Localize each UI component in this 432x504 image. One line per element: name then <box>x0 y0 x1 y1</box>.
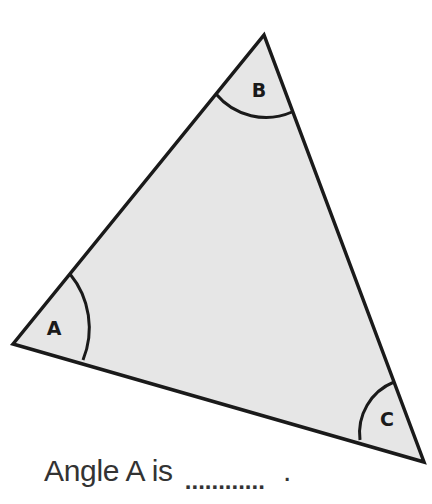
question-prefix: Angle A is <box>44 454 173 487</box>
vertex-label-b: B <box>252 79 266 101</box>
question-text: Angle A is ............ . <box>44 454 291 488</box>
triangle-shape <box>13 35 424 462</box>
vertex-label-c: C <box>380 408 394 430</box>
answer-blank[interactable]: ............ <box>185 467 265 495</box>
triangle-diagram: A B C <box>0 0 432 504</box>
question-suffix: . <box>283 454 291 487</box>
vertex-label-a: A <box>47 317 62 339</box>
